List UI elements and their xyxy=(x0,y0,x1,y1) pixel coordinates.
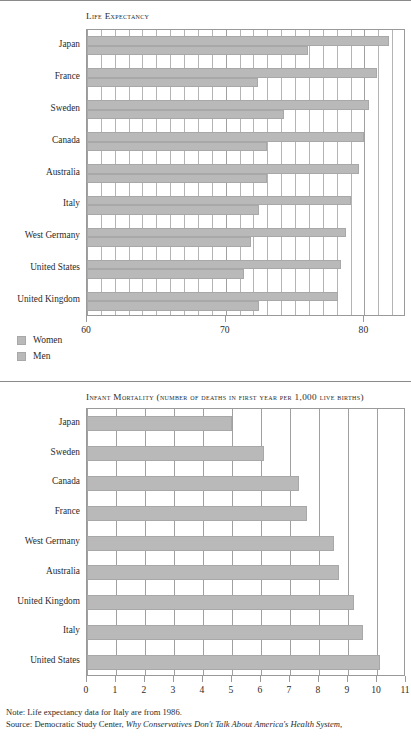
legend-swatch-men xyxy=(17,352,26,361)
infant-mortality-panel: Infant Mortality (number of deaths in fi… xyxy=(0,381,411,747)
life-expectancy-panel: Life Expectancy JapanFranceSwedenCanadaA… xyxy=(0,0,411,381)
legend-item-men: Men xyxy=(17,352,50,362)
panel-divider-middle xyxy=(0,381,411,382)
category-label: Italy xyxy=(0,626,80,635)
bar xyxy=(87,174,267,184)
panel-divider-top xyxy=(0,0,411,1)
infant-mortality-plot-area xyxy=(86,408,405,676)
axis-tick xyxy=(202,676,203,682)
bar xyxy=(87,292,338,302)
axis-tick xyxy=(173,676,174,682)
bar xyxy=(87,205,259,215)
bar xyxy=(87,196,351,206)
gridline xyxy=(377,409,378,675)
bar xyxy=(87,36,389,46)
bar xyxy=(87,46,308,56)
bar xyxy=(87,100,369,110)
axis-tick xyxy=(144,676,145,682)
bar xyxy=(87,476,299,491)
axis-tick xyxy=(115,676,116,682)
bar xyxy=(87,164,359,174)
legend-label-men: Men xyxy=(33,352,50,362)
axis-tick-label: 4 xyxy=(200,684,205,695)
axis-tick-label: 70 xyxy=(220,324,230,335)
bar xyxy=(87,625,363,640)
footnotes-block: Note: Life expectancy data for Italy are… xyxy=(6,706,407,730)
bar xyxy=(87,301,259,311)
bar xyxy=(87,446,264,461)
axis-tick-label: 11 xyxy=(400,684,409,695)
category-label: Sweden xyxy=(0,448,80,457)
bar xyxy=(87,132,364,142)
bar xyxy=(87,565,339,580)
footnote-source: Source: Democratic Study Center, Why Con… xyxy=(6,718,407,730)
chart-title-infant-mortality: Infant Mortality (number of deaths in fi… xyxy=(86,392,364,402)
axis-tick-label: 7 xyxy=(287,684,292,695)
bar xyxy=(87,110,284,120)
legend-label-women: Women xyxy=(33,336,62,346)
axis-tick xyxy=(86,316,87,322)
bar xyxy=(87,595,354,610)
chart-title-life-expectancy: Life Expectancy xyxy=(86,11,149,21)
axis-tick xyxy=(231,676,232,682)
gridline xyxy=(378,30,379,315)
legend-item-women: Women xyxy=(17,336,62,346)
axis-tick xyxy=(225,316,226,322)
category-label: Canada xyxy=(0,477,80,486)
category-label: United Kingdom xyxy=(0,295,80,304)
footnote-source-prefix: Source: Democratic Study Center, xyxy=(6,719,126,729)
category-label: West Germany xyxy=(0,537,80,546)
category-label: Japan xyxy=(0,40,80,49)
category-label: Japan xyxy=(0,418,80,427)
bar xyxy=(87,237,251,247)
axis-tick xyxy=(347,676,348,682)
axis-tick xyxy=(405,676,406,682)
bar xyxy=(87,228,346,238)
axis-tick-label: 80 xyxy=(359,324,369,335)
axis-tick-label: 5 xyxy=(229,684,234,695)
category-label: Australia xyxy=(0,168,80,177)
axis-tick-label: 10 xyxy=(371,684,381,695)
footnote-note: Note: Life expectancy data for Italy are… xyxy=(6,706,407,718)
category-label: France xyxy=(0,72,80,81)
bar xyxy=(87,68,377,78)
axis-tick xyxy=(289,676,290,682)
category-label: West Germany xyxy=(0,231,80,240)
axis-tick-label: 9 xyxy=(345,684,350,695)
bar xyxy=(87,78,258,88)
axis-tick-label: 2 xyxy=(142,684,147,695)
category-label: United States xyxy=(0,263,80,272)
category-label: Sweden xyxy=(0,104,80,113)
bar xyxy=(87,416,232,431)
category-label: United States xyxy=(0,656,80,665)
chart-title-life-text: Life Expectancy xyxy=(86,11,149,21)
bar xyxy=(87,260,341,270)
bar xyxy=(87,506,307,521)
chart-title-infant-text: Infant Mortality xyxy=(86,392,154,402)
gridline xyxy=(392,30,393,315)
bar xyxy=(87,536,334,551)
bar xyxy=(87,655,380,670)
category-label: Canada xyxy=(0,136,80,145)
bar xyxy=(87,142,267,152)
axis-tick-label: 60 xyxy=(81,324,91,335)
axis-tick-label: 8 xyxy=(316,684,321,695)
axis-tick xyxy=(260,676,261,682)
category-label: Italy xyxy=(0,199,80,208)
life-expectancy-plot-area xyxy=(86,29,405,316)
axis-tick xyxy=(363,316,364,322)
bar xyxy=(87,269,244,279)
category-label: Australia xyxy=(0,567,80,576)
category-label: United Kingdom xyxy=(0,597,80,606)
axis-tick xyxy=(376,676,377,682)
axis-tick-label: 3 xyxy=(171,684,176,695)
chart-title-infant-suffix: (number of deaths in first year per 1,00… xyxy=(154,392,364,402)
axis-tick-label: 6 xyxy=(258,684,263,695)
axis-tick xyxy=(318,676,319,682)
axis-tick-label: 0 xyxy=(84,684,89,695)
legend-swatch-women xyxy=(17,336,26,345)
footnote-source-title: Why Conservatives Don't Talk About Ameri… xyxy=(126,719,342,729)
category-label: France xyxy=(0,507,80,516)
axis-tick-label: 1 xyxy=(113,684,118,695)
axis-tick xyxy=(86,676,87,682)
